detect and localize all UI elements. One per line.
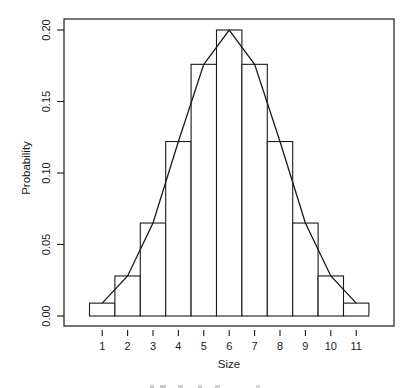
histogram-bar	[90, 303, 115, 316]
histogram-bar	[242, 64, 267, 316]
histogram-bar	[293, 223, 318, 316]
x-tick-label: 10	[325, 340, 337, 352]
histogram-bar	[217, 30, 242, 316]
histogram-bar	[140, 223, 165, 316]
x-tick-label: 6	[226, 340, 232, 352]
x-tick-label: 3	[150, 340, 156, 352]
x-tick-label: 2	[125, 340, 131, 352]
y-tick-label: 0.00	[40, 305, 52, 326]
x-axis-label: Size	[218, 358, 240, 370]
y-axis-label: Probability	[20, 141, 32, 195]
x-tick-label: 5	[201, 340, 207, 352]
x-tick-label: 9	[302, 340, 308, 352]
histogram-bar	[166, 142, 191, 316]
x-tick-label: 11	[350, 340, 361, 352]
x-tick-label: 4	[175, 340, 181, 352]
x-tick-label: 1	[99, 340, 105, 352]
histogram-bar	[115, 276, 140, 316]
x-axis: 1234567891011	[99, 330, 362, 352]
x-tick-label: 7	[252, 340, 258, 352]
y-tick-label: 0.05	[40, 234, 52, 255]
histogram-bar	[267, 142, 292, 316]
y-tick-label: 0.10	[40, 162, 52, 183]
histogram-bars	[90, 30, 369, 316]
y-axis: 0.000.050.100.150.20	[40, 19, 64, 326]
chart: 0.000.050.100.150.20 1234567891011 Proba…	[0, 0, 414, 388]
x-tick-label: 8	[277, 340, 283, 352]
histogram-bar	[344, 303, 369, 316]
y-tick-label: 0.20	[40, 19, 52, 40]
histogram-bar	[191, 64, 216, 316]
y-tick-label: 0.15	[40, 91, 52, 112]
histogram-bar	[318, 276, 343, 316]
